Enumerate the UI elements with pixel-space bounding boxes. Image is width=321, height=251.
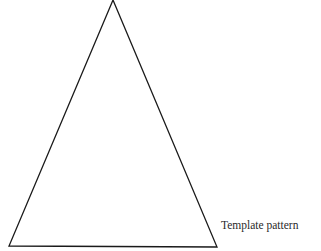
template-pattern-diagram [0, 0, 321, 251]
triangle-template-shape [9, 0, 217, 247]
template-pattern-label: Template pattern [221, 219, 298, 231]
